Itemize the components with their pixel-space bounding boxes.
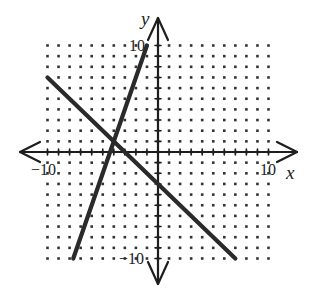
x-min-tick-label: −10 [31, 162, 56, 178]
coordinate-plane [0, 0, 309, 294]
y-axis-label: y [141, 9, 149, 28]
y-max-tick-label: 10 [129, 38, 145, 54]
plotted-line-2 [48, 77, 236, 258]
y-min-tick-label: −10 [119, 251, 144, 267]
axes [20, 18, 297, 284]
x-axis-label: x [286, 163, 294, 182]
x-max-tick-label: 10 [260, 162, 276, 178]
